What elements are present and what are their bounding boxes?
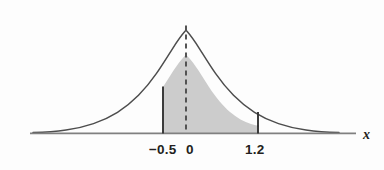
x-axis-label: x [363, 128, 370, 142]
x-tick-label-zero: 0 [186, 143, 194, 157]
x-tick-label-12: 1.2 [245, 143, 264, 157]
x-tick-label-neg05: −0.5 [149, 143, 176, 157]
normal-distribution-figure: −0.5 0 1.2 x [0, 0, 384, 170]
